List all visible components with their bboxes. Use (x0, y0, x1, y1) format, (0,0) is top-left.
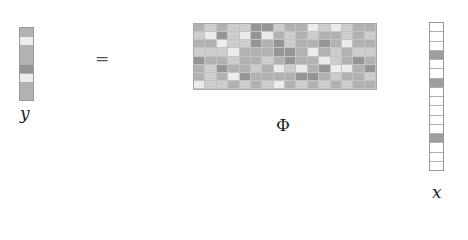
y-vector-cell (20, 55, 33, 64)
phi-matrix-cell (365, 73, 376, 81)
phi-matrix-cell (285, 57, 296, 65)
x-vector-cell (430, 106, 443, 115)
phi-label: Φ (276, 115, 290, 135)
phi-matrix-cell (194, 57, 205, 65)
phi-matrix-cell (353, 57, 364, 65)
phi-matrix-cell (205, 48, 216, 56)
phi-matrix-cell (331, 73, 342, 81)
phi-matrix-cell (240, 57, 251, 65)
equals-sign: = (95, 48, 109, 68)
phi-matrix-cell (240, 73, 251, 81)
phi-matrix-cell (262, 40, 273, 48)
phi-matrix-cell (262, 81, 273, 89)
phi-matrix-cell (262, 73, 273, 81)
phi-matrix-cell (262, 57, 273, 65)
phi-matrix-cell (194, 32, 205, 40)
phi-matrix-cell (274, 48, 285, 56)
phi-matrix-cell (353, 32, 364, 40)
phi-matrix-cell (217, 57, 228, 65)
phi-matrix-cell (365, 57, 376, 65)
phi-matrix-cell (251, 40, 262, 48)
phi-matrix-cell (217, 81, 228, 89)
x-vector-cell (430, 116, 443, 125)
phi-matrix-cell (342, 48, 353, 56)
phi-matrix-cell (240, 81, 251, 89)
phi-matrix-cell (217, 32, 228, 40)
x-label: x (432, 182, 442, 202)
phi-matrix-cell (285, 48, 296, 56)
phi-matrix-cell (308, 65, 319, 73)
phi-matrix-cell (240, 40, 251, 48)
x-vector-cell (430, 69, 443, 78)
phi-matrix-cell (228, 24, 239, 32)
phi-matrix-cell (251, 73, 262, 81)
phi-matrix-cell (331, 57, 342, 65)
x-vector-cell (430, 143, 443, 152)
y-vector-cell (20, 74, 33, 83)
phi-matrix-cell (251, 57, 262, 65)
phi-matrix-cell (274, 40, 285, 48)
phi-matrix-cell (217, 73, 228, 81)
phi-matrix-cell (274, 24, 285, 32)
phi-matrix-cell (353, 73, 364, 81)
phi-matrix-cell (331, 40, 342, 48)
phi-matrix-cell (228, 48, 239, 56)
phi-matrix-cell (353, 81, 364, 89)
phi-matrix-cell (262, 32, 273, 40)
phi-matrix-cell (365, 48, 376, 56)
phi-matrix-cell (240, 24, 251, 32)
phi-matrix-cell (205, 81, 216, 89)
phi-matrix-cell (296, 81, 307, 89)
phi-matrix-cell (194, 73, 205, 81)
phi-matrix-cell (365, 40, 376, 48)
phi-matrix-cell (205, 73, 216, 81)
phi-matrix-cell (251, 24, 262, 32)
x-vector-cell (430, 162, 443, 170)
x-vector-cell (430, 97, 443, 106)
phi-matrix-cell (205, 57, 216, 65)
phi-matrix-cell (251, 32, 262, 40)
y-vector-cell (20, 28, 33, 37)
phi-matrix-cell (194, 65, 205, 73)
phi-matrix-cell (251, 81, 262, 89)
phi-matrix-cell (217, 24, 228, 32)
phi-matrix-cell (228, 32, 239, 40)
phi-matrix-cell (308, 32, 319, 40)
phi-matrix-cell (308, 81, 319, 89)
phi-matrix-cell (217, 40, 228, 48)
phi-matrix-cell (319, 57, 330, 65)
phi-matrix-cell (308, 40, 319, 48)
phi-matrix-cell (319, 73, 330, 81)
phi-matrix-cell (251, 65, 262, 73)
phi-matrix-cell (296, 73, 307, 81)
y-vector-cell (20, 46, 33, 55)
phi-matrix-cell (296, 32, 307, 40)
y-vector-cell (20, 65, 33, 74)
phi-matrix-cell (285, 32, 296, 40)
phi-matrix-cell (319, 32, 330, 40)
phi-matrix-cell (240, 65, 251, 73)
phi-matrix-cell (319, 40, 330, 48)
phi-matrix-cell (285, 24, 296, 32)
phi-matrix-cell (285, 73, 296, 81)
phi-matrix-cell (308, 73, 319, 81)
phi-matrix-cell (342, 81, 353, 89)
y-vector-cell (20, 92, 33, 100)
phi-matrix-cell (285, 81, 296, 89)
phi-matrix-cell (274, 73, 285, 81)
x-vector-cell (430, 60, 443, 69)
phi-matrix-cell (296, 57, 307, 65)
phi-matrix-cell (194, 24, 205, 32)
phi-matrix (193, 23, 377, 90)
phi-matrix-cell (342, 24, 353, 32)
phi-matrix-cell (319, 65, 330, 73)
phi-matrix-cell (365, 24, 376, 32)
phi-matrix-cell (262, 65, 273, 73)
phi-matrix-cell (240, 32, 251, 40)
x-vector-cell (430, 134, 443, 143)
phi-matrix-cell (285, 40, 296, 48)
x-vector-cell (430, 153, 443, 162)
phi-matrix-cell (262, 48, 273, 56)
phi-matrix-cell (353, 40, 364, 48)
x-vector (429, 22, 444, 171)
